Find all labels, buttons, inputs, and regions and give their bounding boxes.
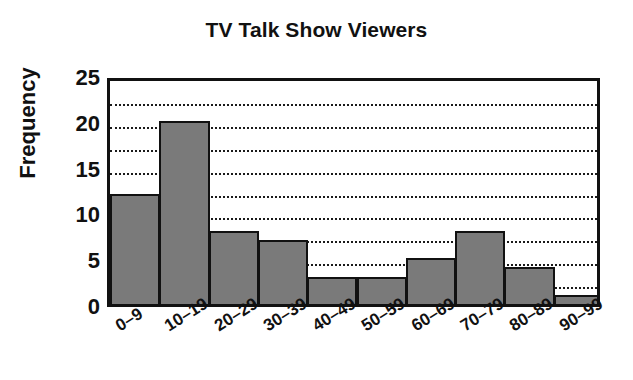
plot-area: [107, 78, 600, 307]
y-tick-label: 15: [54, 159, 100, 181]
x-axis-tick-labels: 0–910–1920–2930–3940–4950–5960–6970–7980…: [107, 307, 600, 380]
y-tick-label: 20: [54, 113, 100, 135]
y-tick-label: 10: [54, 204, 100, 226]
chart-title: TV Talk Show Viewers: [0, 18, 633, 42]
y-tick-label: 0: [54, 296, 100, 318]
y-axis-title: Frequency: [15, 43, 41, 203]
histogram-bar: [110, 194, 160, 304]
y-tick-label: 5: [54, 250, 100, 272]
histogram-bar: [209, 231, 259, 304]
x-tick-label: 0–9: [112, 304, 147, 336]
chart-page: TV Talk Show Viewers Frequency 252015105…: [0, 0, 633, 380]
histogram-bar: [455, 231, 505, 304]
y-axis-tick-labels: 2520151050: [44, 78, 100, 307]
histogram-bars: [110, 81, 597, 304]
histogram-bar: [159, 121, 209, 304]
y-tick-label: 25: [54, 67, 100, 89]
